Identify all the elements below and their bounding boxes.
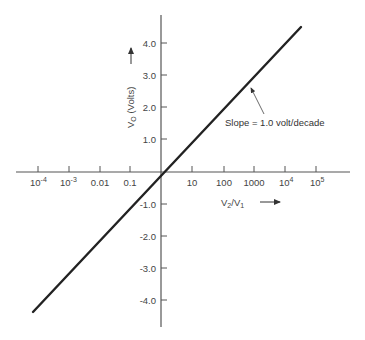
slope-annotation: Slope = 1.0 volt/decade: [225, 88, 325, 128]
x-tick-label: 10-3: [60, 176, 77, 188]
x-ticks: [38, 166, 316, 172]
y-tick-label: -4.0: [140, 295, 156, 306]
y-tick-label: 3.0: [143, 70, 156, 81]
x-tick-label: 10: [187, 177, 198, 188]
x-tick-label: 10-4: [30, 176, 47, 188]
svg-text:VO (Volts): VO (Volts): [125, 87, 137, 128]
y-tick-label: 4.0: [143, 38, 156, 49]
y-tick-label: 2.0: [143, 102, 156, 113]
series-line: [33, 27, 301, 312]
y-tick-label: 1.0: [143, 134, 156, 145]
x-tick-label: 104: [279, 176, 294, 188]
x-tick-label: 0.1: [123, 177, 136, 188]
x-tick-label: 105: [310, 176, 325, 188]
x-tick-label: 100: [216, 177, 232, 188]
svg-text:Slope = 1.0 volt/decade: Slope = 1.0 volt/decade: [225, 117, 325, 128]
x-axis-label: V2/V1: [221, 197, 280, 209]
x-tick-label: 1000: [243, 177, 264, 188]
svg-text:V2/V1: V2/V1: [221, 197, 244, 209]
annotation-arrow-icon: [251, 88, 264, 114]
y-tick-label: -1.0: [140, 199, 156, 210]
y-axis-label: VO (Volts): [125, 48, 137, 128]
y-tick-label: -3.0: [140, 263, 156, 274]
y-tick-label: -2.0: [140, 231, 156, 242]
x-tick-labels: 10-4 10-3 0.01 0.1 10 100 1000 104 105: [30, 176, 325, 188]
chart: 10-4 10-3 0.01 0.1 10 100 1000 104 105 4…: [0, 0, 365, 340]
x-tick-label: 0.01: [91, 177, 110, 188]
